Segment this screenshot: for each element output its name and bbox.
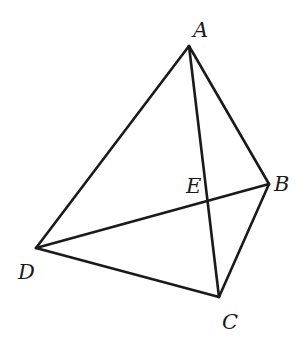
label-A: A [193,20,208,41]
edge-AB [189,46,269,184]
edge-AC [189,46,219,297]
diagram-lines [0,0,305,352]
label-E: E [186,176,201,197]
label-C: C [222,312,238,333]
edge-DC [36,248,219,297]
edge-BC [219,184,269,297]
edge-AD [36,46,189,248]
edge-DB [36,184,269,248]
tetrahedron-diagram: A B E D C [0,0,305,352]
label-B: B [274,174,289,195]
label-D: D [18,262,35,283]
